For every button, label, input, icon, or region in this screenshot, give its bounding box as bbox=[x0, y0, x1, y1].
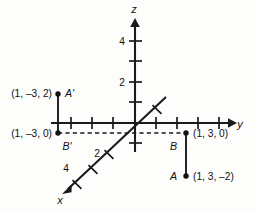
b-prime-coords-label: (1, –3, 0) bbox=[11, 128, 52, 139]
y-axis-arrowhead bbox=[228, 118, 237, 128]
a-coords-label: (1, 3, –2) bbox=[193, 171, 234, 182]
x-tick-label-2: 2 bbox=[94, 148, 100, 159]
coordinate-diagram: z y x 4 2 2 4 (1, –3, 2) A' (1, –3, 0) B… bbox=[0, 0, 256, 212]
z-axis-label: z bbox=[130, 3, 137, 15]
b-point-label: B bbox=[170, 140, 177, 152]
x-tick-label-4: 4 bbox=[63, 163, 69, 174]
segment-a-b bbox=[183, 130, 188, 178]
x-axis-arrowhead bbox=[62, 184, 72, 194]
y-axis-label: y bbox=[236, 118, 244, 130]
z-tick-label-2: 2 bbox=[119, 77, 125, 88]
b-coords-label: (1, 3, 0) bbox=[193, 128, 228, 139]
segment-a-prime-b-prime bbox=[55, 91, 60, 135]
x-axis-line bbox=[68, 97, 166, 189]
a-point-label: A bbox=[169, 170, 177, 182]
b-prime-point-label: B' bbox=[62, 140, 72, 152]
point-a-prime-dot bbox=[55, 91, 60, 96]
z-tick-label-4: 4 bbox=[119, 36, 125, 47]
diagram-canvas: z y x 4 2 2 4 (1, –3, 2) A' (1, –3, 0) B… bbox=[0, 0, 256, 212]
z-axis-arrowhead bbox=[130, 18, 140, 27]
x-axis-label: x bbox=[56, 194, 63, 206]
a-prime-coords-label: (1, –3, 2) bbox=[11, 88, 52, 99]
z-axis bbox=[129, 18, 142, 152]
a-prime-point-label: A' bbox=[64, 87, 75, 99]
x-axis bbox=[62, 97, 166, 194]
point-a-dot bbox=[183, 173, 188, 178]
